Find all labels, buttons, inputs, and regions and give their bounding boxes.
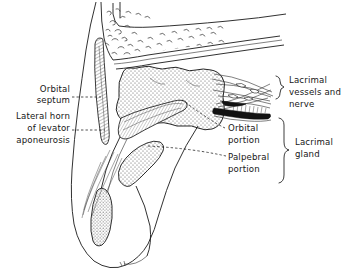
- label-orbital-portion: Orbital portion: [228, 123, 260, 145]
- orbital-septum: [95, 38, 110, 144]
- vessels-nerve-line-2: vessels and: [289, 87, 341, 97]
- tarsal-plate: [91, 188, 113, 246]
- lacrimal-gland-line-1: Lacrimal: [295, 137, 333, 147]
- trabecular-texture: [104, 9, 224, 59]
- lateral-horn-line-3: aponeurosis: [16, 135, 70, 145]
- orbital-septum-line-1: Orbital: [40, 84, 70, 94]
- lacrimal-gland-line-2: gland: [295, 149, 320, 159]
- label-lacrimal-gland: Lacrimal gland: [295, 137, 333, 159]
- lacrimal-gland-figure: Orbital septum Lateral horn of levator a…: [0, 0, 348, 277]
- label-lateral-horn: Lateral horn of levator aponeurosis: [16, 111, 70, 145]
- lateral-horn-line-2: of levator: [27, 123, 70, 133]
- braces: [276, 76, 289, 183]
- lateral-horn-line-1: Lateral horn: [16, 111, 70, 121]
- orbital-septum-line-2: septum: [37, 95, 70, 105]
- palpebral-portion-line-1: Palpebral: [228, 152, 269, 162]
- palpebral-portion-line-2: portion: [228, 164, 260, 174]
- lacrimal-gland-palpebral-lobe: [118, 141, 163, 186]
- brace-vessels-nerve: [276, 76, 284, 99]
- label-orbital-septum: Orbital septum: [37, 84, 70, 105]
- vessels-nerve-line-1: Lacrimal: [289, 75, 327, 85]
- vessels-nerve-line-3: nerve: [289, 99, 314, 109]
- brace-lacrimal-gland: [279, 118, 289, 183]
- orbital-portion-line-2: portion: [228, 135, 260, 145]
- anatomical-illustration: Orbital septum Lateral horn of levator a…: [0, 0, 348, 277]
- label-palpebral-portion: Palpebral portion: [228, 152, 269, 174]
- label-lacrimal-vessels-nerve: Lacrimal vessels and nerve: [289, 75, 341, 109]
- orbital-portion-line-1: Orbital: [228, 123, 258, 133]
- orbital-bone: [101, 2, 286, 69]
